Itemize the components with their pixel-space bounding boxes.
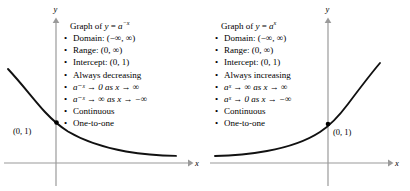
- title-equals: =: [260, 21, 270, 31]
- bullet-icon: •: [215, 56, 218, 68]
- list-item-label: Domain: (−∞, ∞): [224, 33, 286, 43]
- x-axis-arrow: [188, 160, 194, 167]
- properties-list: •Domain: (−∞, ∞) •Range: (0, ∞) •Interce…: [215, 32, 292, 130]
- list-item-label: aˣ → ∞ as x → ∞: [224, 82, 287, 92]
- bullet-icon: •: [215, 69, 218, 81]
- bullet-icon: •: [215, 117, 218, 129]
- list-item-label: Continuous: [224, 106, 266, 116]
- list-item-label: Continuous: [73, 106, 115, 116]
- x-axis-label: x: [394, 158, 399, 168]
- list-item: •Always increasing: [215, 69, 292, 81]
- title-equals: =: [109, 21, 119, 31]
- properties-textblock: Graph of y = ax •Domain: (−∞, ∞) •Range:…: [215, 20, 292, 130]
- list-item: •One-to-one: [64, 117, 147, 129]
- list-item: •One-to-one: [215, 117, 292, 129]
- list-item-label: Always decreasing: [73, 70, 141, 80]
- list-item-label: One-to-one: [224, 118, 265, 128]
- graph-title: Graph of y = ax: [221, 20, 292, 32]
- bullet-icon: •: [64, 93, 67, 105]
- list-item: •Always decreasing: [64, 69, 147, 81]
- graph-title: Graph of y = a−x: [70, 20, 147, 32]
- title-exponent: −x: [123, 19, 130, 26]
- title-prefix: Graph of: [70, 21, 105, 31]
- list-item-label: Domain: (−∞, ∞): [73, 33, 135, 43]
- bullet-icon: •: [64, 117, 67, 129]
- list-item: •Domain: (−∞, ∞): [215, 32, 292, 44]
- bullet-icon: •: [64, 56, 67, 68]
- intercept-point: [54, 120, 59, 125]
- exponential-functions-figure: x y (0, 1) Graph of y = a−x •Domain: (−∞…: [0, 0, 410, 191]
- title-exponent: x: [274, 19, 277, 26]
- list-item: •Domain: (−∞, ∞): [64, 32, 147, 44]
- intercept-label: (0, 1): [333, 128, 351, 137]
- x-axis-arrow: [388, 160, 394, 167]
- list-item: •Intercept: (0, 1): [64, 56, 147, 68]
- list-item-label: a⁻ˣ → ∞ as x → −∞: [73, 94, 147, 104]
- panel-increasing-exponential: x y (0, 1) Graph of y = ax •Domain: (−∞,…: [205, 0, 410, 191]
- bullet-icon: •: [215, 44, 218, 56]
- bullet-icon: •: [64, 81, 67, 93]
- properties-list: •Domain: (−∞, ∞) •Range: (0, ∞) •Interce…: [64, 32, 147, 130]
- list-item: •Range: (0, ∞): [215, 44, 292, 56]
- y-axis-arrow: [325, 18, 332, 24]
- list-item: •Continuous: [215, 105, 292, 117]
- y-axis-label: y: [53, 4, 58, 14]
- panel-decreasing-exponential: x y (0, 1) Graph of y = a−x •Domain: (−∞…: [0, 0, 205, 191]
- bullet-icon: •: [64, 32, 67, 44]
- list-item-label: One-to-one: [73, 118, 114, 128]
- list-item-label: Intercept: (0, 1): [224, 57, 280, 67]
- list-item: •a⁻ˣ → 0 as x → ∞: [64, 81, 147, 93]
- list-item: •Continuous: [64, 105, 147, 117]
- intercept-point: [326, 122, 331, 127]
- list-item: •aˣ → ∞ as x → ∞: [215, 81, 292, 93]
- y-axis-arrow: [53, 18, 60, 24]
- list-item-label: aˣ → 0 as x → −∞: [224, 94, 292, 104]
- title-prefix: Graph of: [221, 21, 256, 31]
- bullet-icon: •: [215, 105, 218, 117]
- list-item-label: Always increasing: [224, 70, 291, 80]
- intercept-label: (0, 1): [13, 127, 31, 136]
- bullet-icon: •: [64, 69, 67, 81]
- list-item-label: Range: (0, ∞): [224, 45, 273, 55]
- list-item-label: Range: (0, ∞): [73, 45, 122, 55]
- list-item: •aˣ → 0 as x → −∞: [215, 93, 292, 105]
- x-axis-label: x: [194, 158, 199, 168]
- bullet-icon: •: [215, 93, 218, 105]
- y-axis-label: y: [325, 4, 330, 14]
- properties-textblock: Graph of y = a−x •Domain: (−∞, ∞) •Range…: [64, 20, 147, 130]
- bullet-icon: •: [215, 81, 218, 93]
- list-item-label: Intercept: (0, 1): [73, 57, 129, 67]
- list-item: •Range: (0, ∞): [64, 44, 147, 56]
- bullet-icon: •: [64, 44, 67, 56]
- list-item-label: a⁻ˣ → 0 as x → ∞: [73, 82, 139, 92]
- bullet-icon: •: [64, 105, 67, 117]
- list-item: •a⁻ˣ → ∞ as x → −∞: [64, 93, 147, 105]
- bullet-icon: •: [215, 32, 218, 44]
- list-item: •Intercept: (0, 1): [215, 56, 292, 68]
